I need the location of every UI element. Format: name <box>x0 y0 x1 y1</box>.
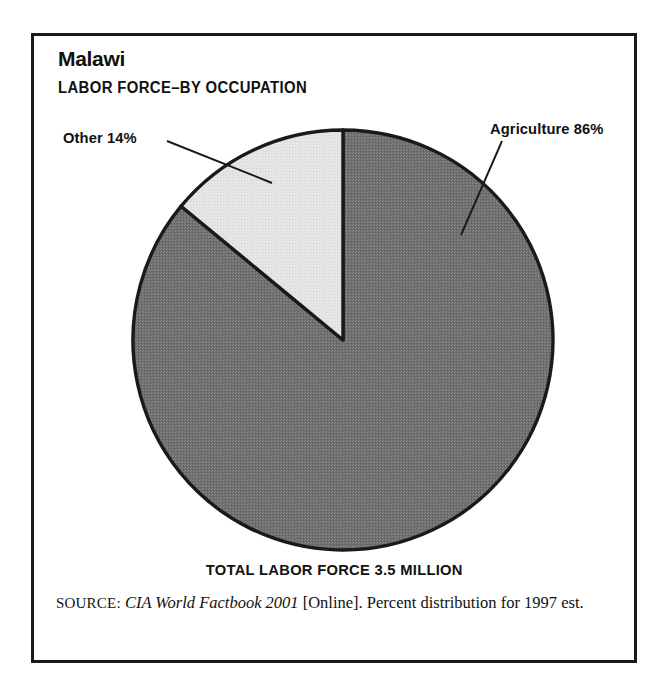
total-labor-force-text: TOTAL LABOR FORCE 3.5 MILLION <box>206 561 463 579</box>
source-label: SOURCE: <box>56 595 121 611</box>
source-publication-title: CIA World Factbook 2001 <box>125 593 299 612</box>
total-labor-force-caption: TOTAL LABOR FORCE 3.5 MILLION <box>34 561 634 579</box>
figure-frame: Malawi LABOR FORCE–BY OCCUPATION Other 1… <box>31 33 637 663</box>
source-detail-text: [Online]. Percent distribution for 1997 … <box>299 593 584 612</box>
source-note: SOURCE: CIA World Factbook 2001 [Online]… <box>56 592 614 614</box>
